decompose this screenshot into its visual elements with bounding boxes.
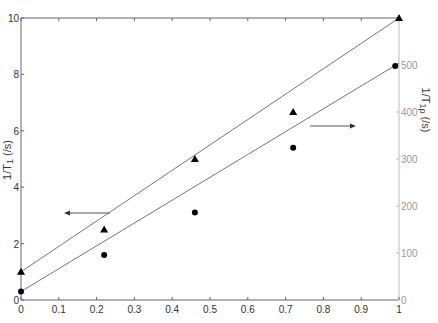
data-point-triangle <box>100 226 108 233</box>
y-axis-title-left: 1/T1 (/s) <box>1 140 15 180</box>
data-point-circle <box>290 145 296 151</box>
data-point-triangle <box>17 268 25 275</box>
chart: 00.10.20.30.40.50.60.70.80.9102468100100… <box>0 0 438 323</box>
y-tick-label-right: 400 <box>401 107 418 118</box>
arrow-right-head-icon <box>350 124 356 129</box>
data-point-circle <box>392 63 398 69</box>
x-tick-label: 0.4 <box>165 304 179 315</box>
y-tick-label-left: 0 <box>13 295 19 306</box>
x-tick-label: 0.7 <box>279 304 293 315</box>
y-tick-label-right: 300 <box>401 154 418 165</box>
x-tick-label: 0.2 <box>90 304 104 315</box>
y-tick-label-right: 0 <box>401 295 407 306</box>
data-point-triangle <box>289 108 297 115</box>
y-tick-label-left: 4 <box>13 182 19 193</box>
y-tick-label-left: 2 <box>13 239 19 250</box>
x-tick-label: 0 <box>18 304 24 315</box>
x-tick-label: 0.8 <box>316 304 330 315</box>
arrow-left-head-icon <box>64 211 70 216</box>
x-tick-label: 0.5 <box>203 304 217 315</box>
x-tick-label: 0.9 <box>354 304 368 315</box>
y-tick-label-left: 6 <box>13 126 19 137</box>
data-point-triangle <box>191 155 199 162</box>
fit-line <box>21 63 399 291</box>
data-point-circle <box>192 210 198 216</box>
x-tick-label: 0.3 <box>127 304 141 315</box>
y-tick-label-right: 100 <box>401 248 418 259</box>
y-tick-label-left: 10 <box>8 13 20 24</box>
x-tick-label: 0.1 <box>52 304 66 315</box>
y-tick-label-left: 8 <box>13 69 19 80</box>
x-tick-label: 0.6 <box>241 304 255 315</box>
fit-line <box>21 18 399 272</box>
data-point-circle <box>101 252 107 258</box>
y-tick-label-right: 200 <box>401 201 418 212</box>
y-tick-label-right: 500 <box>401 60 418 71</box>
y-axis-title-right: 1/T1ρ (/s) <box>418 88 432 133</box>
data-point-circle <box>18 289 24 295</box>
